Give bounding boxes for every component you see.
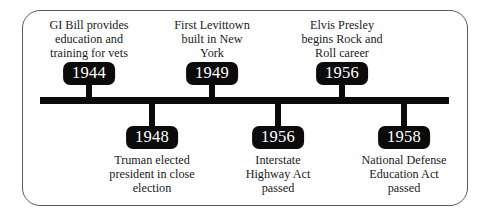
caption-line-1: Elvis Presley [301, 18, 382, 32]
event-year-badge: 1956 [316, 62, 368, 85]
event-connector-stem [275, 102, 281, 126]
caption-line-3: York [174, 46, 250, 60]
event-caption: GI Bill provides education and training … [49, 18, 128, 61]
event-caption: Truman elected president in close electi… [109, 153, 194, 196]
caption-line-2: Education Act [362, 167, 447, 181]
caption-line-2: begins Rock and [301, 32, 382, 46]
event-connector-stem [401, 102, 407, 126]
event-year-badge: 1949 [186, 62, 238, 85]
event-connector-stem [149, 102, 155, 126]
event-year-badge: 1956 [252, 126, 304, 149]
caption-line-1: National Defense [362, 153, 447, 167]
caption-line-2: built in New [174, 32, 250, 46]
event-connector-stem [339, 84, 345, 100]
caption-line-2: education and [49, 32, 128, 46]
event-year-badge: 1958 [378, 126, 430, 149]
caption-line-1: GI Bill provides [49, 18, 128, 32]
event-connector-stem [86, 84, 92, 100]
caption-line-3: election [109, 181, 194, 195]
event-caption: Interstate Highway Act passed [246, 153, 311, 196]
caption-line-1: Interstate [246, 153, 311, 167]
timeline-figure: GI Bill provides education and training … [0, 0, 491, 219]
caption-line-1: First Levittown [174, 18, 250, 32]
event-connector-stem [209, 84, 215, 100]
event-caption: Elvis Presley begins Rock and Roll caree… [301, 18, 382, 61]
caption-line-3: passed [246, 181, 311, 195]
event-caption: First Levittown built in New York [174, 18, 250, 61]
event-caption: National Defense Education Act passed [362, 153, 447, 196]
caption-line-2: Highway Act [246, 167, 311, 181]
caption-line-3: Roll career [301, 46, 382, 60]
caption-line-1: Truman elected [109, 153, 194, 167]
timeline-axis-bar [40, 97, 449, 104]
event-year-badge: 1948 [126, 126, 178, 149]
caption-line-3: training for vets [49, 46, 128, 60]
event-year-badge: 1944 [63, 62, 115, 85]
caption-line-2: president in close [109, 167, 194, 181]
caption-line-3: passed [362, 181, 447, 195]
